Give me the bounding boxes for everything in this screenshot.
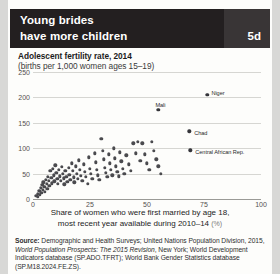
scatter-point — [51, 167, 54, 170]
scatter-point — [109, 168, 112, 171]
chart-title: Adolescent fertility rate, 2014 — [18, 51, 132, 61]
scatter-point — [150, 140, 153, 143]
scatter-point — [70, 162, 73, 165]
scatter-point — [79, 174, 82, 177]
scatter-point — [91, 177, 94, 180]
scatter-point — [132, 141, 135, 144]
scatter-point — [134, 152, 137, 155]
scatter-point — [108, 162, 111, 165]
scatter-point — [87, 156, 90, 159]
scatter-point — [64, 169, 67, 172]
scatter-point — [69, 178, 72, 181]
y-gridline — [33, 123, 261, 124]
scatter-point — [81, 179, 84, 182]
source-label: Source: — [15, 237, 40, 244]
y-gridline — [33, 72, 261, 73]
x-axis-unit: (%) — [211, 220, 222, 227]
scatter-point — [45, 187, 48, 190]
scatter-point — [68, 173, 71, 176]
scatter-point — [113, 157, 116, 160]
figure-number-badge: 5d — [248, 30, 261, 42]
source-text-1: Demographic and Health Surveys; United N… — [40, 237, 265, 244]
scatter-point — [96, 173, 99, 176]
figure-title: Young brides have more children — [20, 13, 210, 44]
scatter-point — [84, 175, 87, 178]
scatter-point — [77, 159, 80, 162]
x-axis-tick-label: 25 — [86, 201, 94, 208]
x-axis-caption-line1: Share of women who were first married by… — [18, 208, 262, 219]
scatter-point — [159, 172, 162, 175]
figure-header: Young brides have more children 5d — [10, 9, 270, 48]
scatter-point — [125, 154, 128, 157]
scatter-point-label: Niger — [211, 90, 224, 96]
y-axis-tick-label: 250 — [18, 69, 30, 76]
scatter-point — [48, 184, 51, 187]
scatter-point-label: Chad — [194, 130, 207, 136]
scatter-point — [57, 168, 60, 171]
figure-root: Young brides have more children 5d Adole… — [0, 0, 280, 274]
scatter-point — [101, 149, 104, 152]
scatter-point — [89, 172, 92, 175]
x-axis-caption-line2-text: most recent year available during 2010–1… — [58, 219, 209, 228]
scatter-point — [75, 172, 78, 175]
scatter-point — [63, 183, 66, 186]
x-axis-tick-label: 50 — [143, 201, 151, 208]
scatter-point — [121, 167, 124, 170]
scatter-point — [143, 153, 146, 156]
scatter-point — [136, 140, 139, 143]
y-gridline — [33, 199, 261, 200]
scatter-point — [117, 174, 120, 177]
scatter-point — [93, 152, 96, 155]
scatter-point — [82, 163, 85, 166]
x-axis-tick-label: 75 — [200, 201, 208, 208]
y-gridline — [33, 97, 261, 98]
scatter-point — [76, 177, 79, 180]
scatter-point-labeled — [189, 149, 192, 152]
y-axis-tick-label: 150 — [18, 119, 30, 126]
source-note: Source: Demographic and Health Surveys; … — [15, 237, 265, 271]
y-axis-tick-label: 100 — [18, 145, 30, 152]
scatter-point — [112, 146, 115, 149]
scatter-point — [94, 161, 97, 164]
y-axis-tick-label: 50 — [22, 170, 30, 177]
scatter-point — [148, 168, 151, 171]
scatter-point — [106, 175, 109, 178]
scatter-point-labeled — [187, 130, 190, 133]
scatter-point — [102, 158, 105, 161]
scatter-point-labeled — [206, 93, 209, 96]
scatter-point — [86, 182, 89, 185]
scatter-point-label: Central African Rep. — [195, 149, 244, 155]
x-axis-tick-label: 100 — [255, 201, 267, 208]
scatter-point — [95, 168, 98, 171]
scatter-point — [138, 159, 141, 162]
scatter-point — [100, 137, 103, 140]
scatter-point — [111, 173, 114, 176]
scatter-point — [97, 178, 100, 181]
scatter-point-label: Mali — [155, 102, 165, 108]
scatter-point — [129, 169, 132, 172]
scatter-point — [73, 181, 76, 184]
scatter-point — [54, 164, 57, 167]
scatter-point — [127, 163, 130, 166]
scatter-point — [56, 182, 59, 185]
scatter-point — [52, 173, 55, 176]
scatter-point — [154, 158, 157, 161]
scatter-point — [59, 179, 62, 182]
source-italic-1: World Population Prospects: The 2015 Rev… — [15, 246, 155, 253]
y-axis-tick-label: 0 — [26, 196, 30, 203]
scatter-point — [67, 166, 70, 169]
scatter-point — [71, 169, 74, 172]
y-axis-tick-label: 200 — [18, 94, 30, 101]
scatter-point — [122, 172, 125, 175]
scatter-point — [74, 165, 77, 168]
scatter-point-labeled — [157, 108, 160, 111]
x-axis-caption-line2: most recent year available during 2010–1… — [18, 219, 262, 230]
x-axis-tick-label: 0 — [31, 201, 35, 208]
scatter-point — [157, 165, 160, 168]
scatter-point — [141, 141, 144, 144]
scatter-point — [118, 151, 121, 154]
figure-number-panel: 5d — [224, 9, 270, 48]
chart-subtitle: (births per 1,000 women ages 15–19) — [18, 61, 154, 71]
scatter-point — [88, 167, 91, 170]
x-axis-caption: Share of women who were first married by… — [18, 208, 262, 229]
